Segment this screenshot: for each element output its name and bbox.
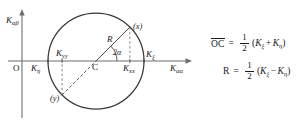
r-equation-rhs: (Kξ−Kη): [257, 66, 290, 76]
r-rhs-term1-sub: ξ: [266, 70, 269, 77]
horizontal-axis-label: Kαα: [170, 64, 183, 73]
r-rhs-term2-sub: η: [284, 70, 287, 77]
k-xi-label: Kξ: [146, 50, 155, 59]
oc-equation-denominator: 2: [240, 44, 249, 53]
vertical-axis-arrowhead: [19, 9, 24, 16]
r-equation: R = 1 2 (Kξ−Kη): [223, 61, 290, 82]
point-y-label: (y): [50, 94, 59, 103]
r-equation-numerator: 1: [245, 61, 254, 70]
k-xi-sub: ξ: [152, 53, 155, 60]
k-xx-sub: xx: [129, 67, 135, 74]
angle-label: 2α: [113, 49, 121, 57]
k-yy-label: Kyy: [56, 49, 68, 58]
equation-block: OC = 1 2 (Kξ+Kη) R = 1 2 (Kξ−Kη): [205, 33, 306, 89]
k-xx-label: Kxx: [123, 64, 135, 73]
r-equation-fraction: 1 2: [245, 61, 254, 82]
oc-equation-numerator: 1: [240, 33, 249, 42]
radius-label: R: [107, 35, 113, 44]
vertical-axis: [19, 9, 24, 118]
r-equation-denominator: 2: [245, 72, 254, 81]
oc-rhs-close-paren: ): [282, 38, 285, 48]
r-rhs-term2-base: K: [278, 66, 284, 76]
k-eta-label: Kη: [31, 64, 40, 73]
diameter-dashed-segment: [62, 61, 96, 95]
center-label: C: [92, 63, 98, 72]
mohr-circle-figure: Kαβ Kαα O C R 2α (x) (y) Kη Kξ Kyy Kxx O…: [0, 0, 306, 122]
k-eta-sub: η: [37, 67, 40, 74]
oc-equation-lhs: OC: [211, 38, 225, 50]
r-rhs-operator: −: [269, 66, 277, 76]
oc-rhs-term2-sub: η: [279, 42, 282, 49]
point-x-label: (x): [133, 22, 142, 31]
oc-equation-fraction: 1 2: [240, 33, 249, 54]
vertical-axis-label-sub: αβ: [12, 19, 19, 26]
r-rhs-close-paren: ): [287, 66, 290, 76]
oc-rhs-operator: +: [264, 38, 272, 48]
r-equation-equals: =: [230, 66, 242, 76]
horizontal-axis-label-sub: αα: [176, 67, 183, 74]
k-yy-sub: yy: [62, 52, 68, 59]
origin-label: O: [13, 64, 20, 73]
oc-equation: OC = 1 2 (Kξ+Kη): [211, 33, 285, 54]
oc-equation-rhs: (Kξ+Kη): [252, 38, 285, 48]
vertical-axis-label: Kαβ: [6, 16, 19, 25]
horizontal-axis-arrowhead: [186, 58, 193, 63]
oc-equation-equals: =: [225, 38, 237, 48]
oc-rhs-term1-sub: ξ: [261, 42, 264, 49]
